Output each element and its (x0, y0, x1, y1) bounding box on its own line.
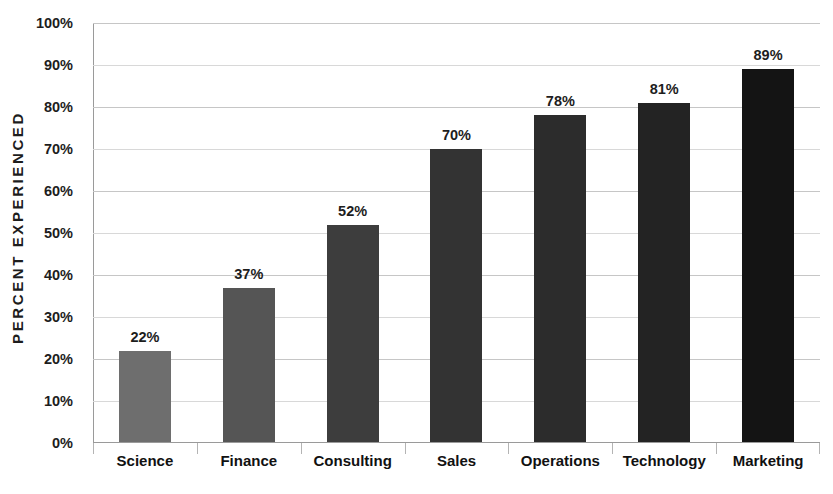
bar-value-label: 37% (234, 266, 263, 282)
bar-slot: 37% (197, 23, 301, 443)
x-axis-category-label: Consulting (313, 452, 391, 469)
bar-value-label: 52% (338, 203, 367, 219)
y-axis-tick-label: 10% (3, 393, 73, 409)
x-axis-tick (93, 443, 94, 454)
bar[interactable] (223, 288, 275, 443)
x-axis-tick (612, 443, 613, 454)
x-axis-tick (508, 443, 509, 454)
y-axis-tick-label: 70% (3, 141, 73, 157)
bar[interactable] (638, 103, 690, 443)
bars-layer: 22%37%52%70%78%81%89% (93, 23, 820, 443)
x-axis-category-label: Science (117, 452, 174, 469)
x-axis-category-label: Sales (437, 452, 476, 469)
bar-value-label: 70% (442, 127, 471, 143)
x-axis-category-label: Finance (220, 452, 277, 469)
y-axis-tick-label: 0% (3, 435, 73, 451)
x-axis-category-label: Marketing (733, 452, 804, 469)
x-axis-tick (405, 443, 406, 454)
bar-value-label: 89% (754, 47, 783, 63)
bar-value-label: 22% (130, 329, 159, 345)
x-axis-tick (197, 443, 198, 454)
bar-slot: 81% (612, 23, 716, 443)
bar-chart: PERCENT EXPERIENCED 0%10%20%30%40%50%60%… (0, 0, 833, 494)
x-axis-category-label: Operations (521, 452, 600, 469)
bar[interactable] (327, 225, 379, 443)
y-axis-tick-label: 20% (3, 351, 73, 367)
bar-slot: 78% (508, 23, 612, 443)
bar[interactable] (742, 69, 794, 443)
y-axis-tick-label: 30% (3, 309, 73, 325)
bar-slot: 89% (716, 23, 820, 443)
bar-value-label: 78% (546, 93, 575, 109)
y-axis-tick-label: 90% (3, 57, 73, 73)
x-axis-tick (819, 443, 820, 454)
y-axis-tick-label: 80% (3, 99, 73, 115)
y-axis-tick-label: 60% (3, 183, 73, 199)
x-axis-category-label: Technology (623, 452, 706, 469)
bar-slot: 22% (93, 23, 197, 443)
bar-slot: 70% (405, 23, 509, 443)
y-axis-tick-label: 40% (3, 267, 73, 283)
bar[interactable] (430, 149, 482, 443)
bar-value-label: 81% (650, 81, 679, 97)
x-axis-tick (301, 443, 302, 454)
x-axis-tick (716, 443, 717, 454)
bar-slot: 52% (301, 23, 405, 443)
y-axis-tick-label: 100% (3, 15, 73, 31)
x-axis-categories: ScienceFinanceConsultingSalesOperationsT… (93, 443, 820, 477)
bar[interactable] (534, 115, 586, 443)
y-axis-tick-label: 50% (3, 225, 73, 241)
plot-area: 0%10%20%30%40%50%60%70%80%90%100% 22%37%… (93, 23, 820, 443)
bar[interactable] (119, 351, 171, 443)
